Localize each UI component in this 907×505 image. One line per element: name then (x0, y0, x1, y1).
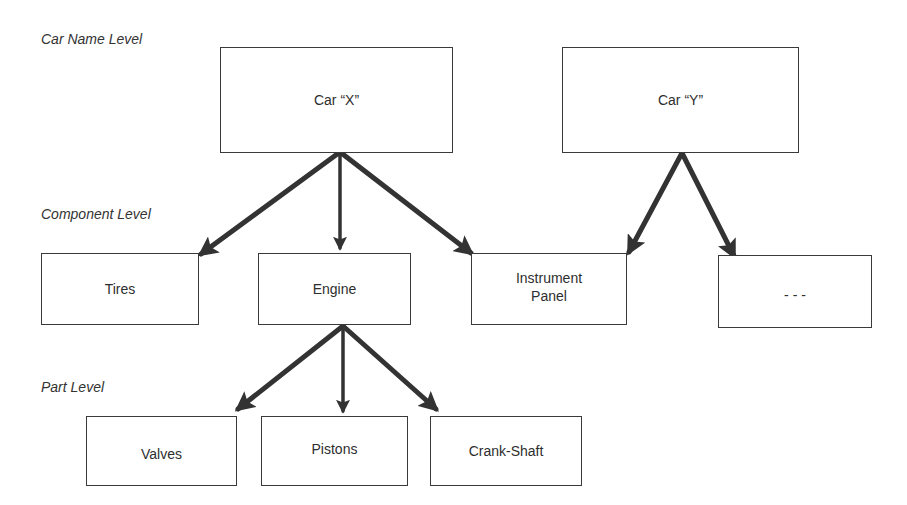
node-instrument-panel-label-line2: Panel (531, 287, 567, 305)
node-car-y: Car “Y” (562, 47, 799, 153)
node-car-x: Car “X” (220, 47, 453, 153)
node-car-x-label: Car “X” (314, 91, 359, 109)
node-crank-shaft: Crank-Shaft (430, 416, 582, 486)
node-engine-label: Engine (313, 280, 357, 298)
node-pistons-label: Pistons (312, 440, 358, 458)
node-instrument-panel: Instrument Panel (471, 253, 627, 325)
arrow-car-x-to-instrument-panel (340, 152, 471, 253)
arrow-engine-to-valves (238, 326, 343, 409)
node-tires-label: Tires (105, 280, 136, 298)
node-car-y-label: Car “Y” (658, 91, 703, 109)
node-tires: Tires (41, 253, 199, 325)
arrow-engine-to-crank-shaft (343, 326, 436, 409)
node-pistons: Pistons (261, 416, 408, 486)
node-ellipsis: - - - (718, 255, 872, 328)
arrow-car-y-to-ellipsis (682, 153, 734, 256)
arrow-car-y-to-instrument-panel (629, 153, 682, 252)
node-instrument-panel-label-line1: Instrument (516, 269, 582, 287)
node-ellipsis-label: - - - (784, 286, 806, 304)
node-engine: Engine (258, 253, 411, 325)
arrow-car-x-to-tires (201, 152, 340, 254)
node-valves: Valves (86, 416, 237, 486)
node-valves-label: Valves (141, 445, 182, 463)
node-crank-shaft-label: Crank-Shaft (469, 442, 544, 460)
